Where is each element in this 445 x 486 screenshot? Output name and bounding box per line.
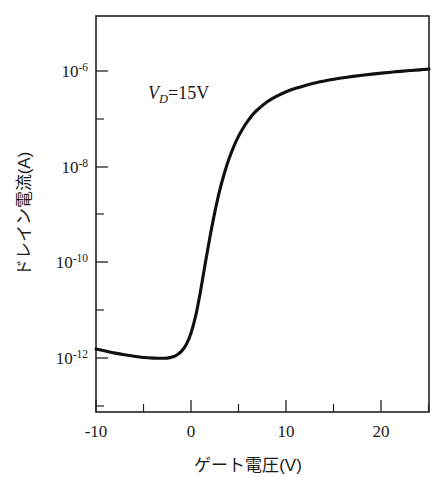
x-tick-label-2: 0 [187,422,196,441]
chart-figure: 10-6 10-8 10-10 10-12 [0,0,445,486]
vd-annotation: VD=15V [148,83,209,106]
x-tick-label-3: 10 [278,422,295,441]
y-axis-title: ドレイン電流(A) [15,152,34,277]
vd-relation: = [168,83,178,103]
vd-value: 15V [178,83,209,103]
x-tick-label-4: 20 [373,422,390,441]
x-axis-title: ゲート電圧(V) [194,456,302,475]
vd-subscript: D [158,92,168,106]
chart-canvas: 10-6 10-8 10-10 10-12 [0,0,445,486]
x-tick-label-1: -10 [85,422,108,441]
